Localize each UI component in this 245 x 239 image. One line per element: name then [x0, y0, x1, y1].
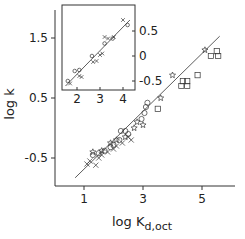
inset-x-tick-label: 2	[73, 92, 81, 106]
inset-y-tick-label: 0	[139, 49, 147, 63]
y-tick-label: 1.5	[29, 31, 48, 45]
square-marker	[155, 106, 160, 111]
square-marker	[185, 83, 190, 88]
square-marker	[179, 83, 184, 88]
star-marker	[122, 134, 128, 140]
star-marker	[131, 125, 137, 131]
cross-marker	[105, 149, 110, 154]
inset-x-tick-label: 3	[96, 92, 104, 106]
inset-frame	[62, 5, 135, 90]
square-marker	[208, 53, 213, 58]
cross-marker	[120, 140, 125, 145]
cross-marker	[114, 143, 119, 148]
inset-plot: 2340.50-0.5	[62, 5, 162, 106]
cross-marker	[129, 137, 134, 142]
x-axis-label: log Kd,oct	[112, 214, 173, 233]
chart: 1351.50.5-0.5 log k log Kd,oct 2340.50-0…	[0, 0, 245, 239]
inset-y-tick-label: 0.5	[139, 24, 158, 38]
y-tick-label: -0.5	[25, 151, 48, 165]
star-marker	[202, 47, 208, 53]
y-tick-label: 0.5	[29, 91, 48, 105]
square-marker	[195, 73, 200, 78]
x-tick-label: 3	[139, 192, 147, 206]
x-tick-label: 1	[80, 192, 88, 206]
square-marker	[214, 49, 219, 54]
y-axis-label: log k	[2, 88, 17, 120]
circle-marker	[142, 110, 147, 115]
square-marker	[216, 53, 221, 58]
cross-marker	[93, 163, 98, 168]
star-marker	[140, 122, 146, 128]
inset-y-tick-label: -0.5	[139, 74, 162, 88]
inset-x-tick-label: 4	[119, 92, 127, 106]
star-marker	[169, 72, 175, 78]
x-tick-label: 5	[198, 192, 206, 206]
x-axis-label-subscript: d,oct	[144, 220, 172, 233]
